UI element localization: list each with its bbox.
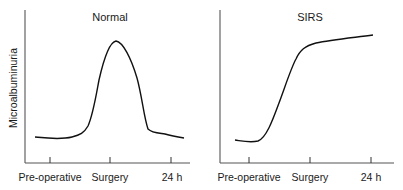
x-tick-label-24h: 24 h: [162, 171, 183, 183]
panel-normal: Normal Microalbuminuria Pre-operative Su…: [7, 10, 190, 183]
panel-title-sirs: SIRS: [297, 11, 323, 23]
y-axis-label: Microalbuminuria: [7, 48, 19, 128]
x-tick-label-preoperative: Pre-operative: [217, 171, 280, 183]
panel-sirs: SIRS Pre-operative Surgery 24 h: [217, 10, 394, 183]
x-tick-label-24h: 24 h: [361, 171, 382, 183]
curve-sirs: [235, 35, 373, 142]
x-tick-label-surgery: Surgery: [92, 171, 130, 183]
panel-title-normal: Normal: [92, 11, 127, 23]
curve-normal: [35, 41, 184, 139]
x-tick-label-preoperative: Pre-operative: [18, 171, 81, 183]
x-tick-label-surgery: Surgery: [292, 171, 330, 183]
figure: Normal Microalbuminuria Pre-operative Su…: [0, 0, 403, 190]
